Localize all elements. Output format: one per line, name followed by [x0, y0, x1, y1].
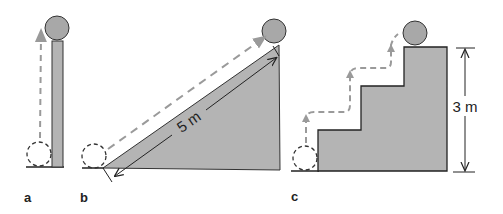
ball-top [403, 21, 427, 45]
panel-c: 3 m c [291, 21, 478, 204]
dimension-tick-bottom [103, 168, 112, 182]
staircase [318, 47, 447, 171]
arrowhead-step2 [346, 70, 354, 78]
ball-top [45, 16, 69, 40]
height-label: 3 m [452, 98, 477, 115]
panel-b: 5 m b [80, 19, 286, 205]
ramp [103, 45, 280, 170]
panel-label-c: c [291, 189, 298, 204]
diagram-canvas: a 5 m b 3 m c [0, 0, 503, 214]
arrowhead-step1 [302, 114, 310, 122]
panel-label-a: a [24, 190, 32, 205]
panel-label-b: b [80, 190, 88, 205]
lift-path-arrow [40, 34, 41, 138]
ball-start-dashed [27, 142, 51, 166]
ball-top [262, 19, 286, 43]
panel-a: a [24, 16, 69, 205]
ball-start-dashed [293, 146, 317, 170]
arrowhead-step3 [387, 44, 395, 52]
ball-start-dashed [82, 144, 106, 168]
vertical-pole [52, 41, 63, 167]
